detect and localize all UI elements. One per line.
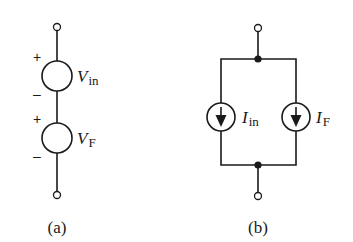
junction-b-top xyxy=(254,55,261,62)
junction-b-bottom xyxy=(254,161,261,168)
label-iin: Iin xyxy=(241,108,259,129)
label-vin: Vin xyxy=(77,67,99,88)
label-iin-subscript: in xyxy=(249,114,260,129)
minus-sign-vf: – xyxy=(33,148,41,164)
caption-b: (b) xyxy=(248,218,268,237)
label-vf: VF xyxy=(77,129,96,150)
current-source-if xyxy=(282,103,310,131)
circuit-diagram: + – + – Vin VF (a) Iin IF (b) xyxy=(0,0,353,242)
plus-sign-vin: + xyxy=(33,49,41,65)
label-vf-subscript: F xyxy=(88,135,95,150)
panel-b: Iin IF (b) xyxy=(207,25,330,238)
minus-sign-vin: – xyxy=(33,86,41,102)
wire-b-top-rail xyxy=(221,59,296,103)
wire-b-bottom-rail xyxy=(221,131,296,165)
caption-a: (a) xyxy=(48,218,67,237)
terminal-a-top xyxy=(54,24,61,31)
plus-sign-vf: + xyxy=(33,111,41,127)
terminal-a-bottom xyxy=(54,192,61,199)
current-source-iin xyxy=(207,103,235,131)
voltage-source-vin xyxy=(42,61,72,91)
voltage-source-vf xyxy=(42,123,72,153)
panel-a: + – + – Vin VF (a) xyxy=(33,24,99,238)
label-vin-subscript: in xyxy=(88,73,99,88)
label-if: IF xyxy=(315,108,330,129)
terminal-b-top xyxy=(255,25,262,32)
label-if-subscript: F xyxy=(323,114,330,129)
terminal-b-bottom xyxy=(255,193,262,200)
